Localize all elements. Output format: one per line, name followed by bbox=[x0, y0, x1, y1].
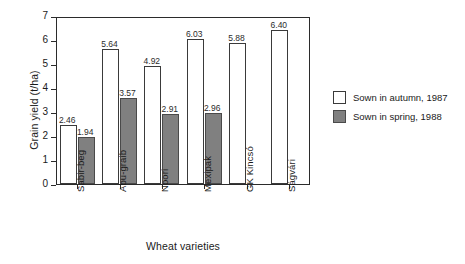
legend-swatch-spring-icon bbox=[333, 110, 346, 123]
y-tick-label: 3 bbox=[42, 106, 48, 118]
bar-value-label: 5.64 bbox=[96, 39, 123, 49]
y-tick-label: 0 bbox=[42, 178, 48, 190]
y-tick-label: 5 bbox=[42, 58, 48, 70]
x-tick-label: Ságvári bbox=[286, 159, 297, 192]
x-tick-label: Mexipak bbox=[202, 156, 213, 192]
y-tick-label: 2 bbox=[42, 130, 48, 142]
x-axis-title: Wheat varieties bbox=[56, 240, 310, 252]
x-tick-label: Abu-graib bbox=[117, 150, 128, 192]
bar-value-label: 1.94 bbox=[72, 127, 99, 137]
y-axis-title: Grain yield (t/ha) bbox=[28, 30, 40, 190]
bar-value-label: 6.03 bbox=[181, 29, 208, 39]
y-tick-label: 1 bbox=[42, 154, 48, 166]
x-tick-label: Sabir-beg bbox=[75, 150, 86, 192]
x-tick-label: Noori bbox=[159, 169, 170, 192]
chart-figure: Grain yield (t/ha) 01234567 2.461.945.64… bbox=[0, 0, 465, 264]
chart-legend: Sown in autumn, 1987 Sown in spring, 198… bbox=[333, 88, 463, 126]
bar-value-label: 3.57 bbox=[114, 88, 141, 98]
y-tick-label: 4 bbox=[42, 82, 48, 94]
x-tick-label: GK Kincsó bbox=[244, 146, 255, 192]
bar-value-label: 5.88 bbox=[223, 33, 250, 43]
y-tick-label: 6 bbox=[42, 34, 48, 46]
legend-label-autumn: Sown in autumn, 1987 bbox=[353, 92, 448, 103]
bar-value-label: 4.92 bbox=[138, 56, 165, 66]
plot-area bbox=[56, 17, 310, 185]
bar-value-label: 2.46 bbox=[54, 115, 81, 125]
bar bbox=[144, 66, 161, 184]
legend-item-spring: Sown in spring, 1988 bbox=[333, 107, 463, 126]
bar-value-label: 6.40 bbox=[265, 20, 292, 30]
bar-value-label: 2.96 bbox=[199, 103, 226, 113]
legend-swatch-autumn-icon bbox=[333, 91, 346, 104]
y-tick-label: 7 bbox=[42, 10, 48, 22]
legend-item-autumn: Sown in autumn, 1987 bbox=[333, 88, 463, 107]
legend-label-spring: Sown in spring, 1988 bbox=[353, 111, 442, 122]
bar-value-label: 2.91 bbox=[156, 104, 183, 114]
